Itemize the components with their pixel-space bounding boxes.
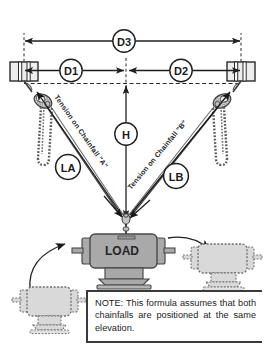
note-text: NOTE: This formula assumes that both cha… [95,297,256,334]
note-bottom-rule [86,341,262,343]
load-body: LOAD [72,227,175,289]
d1-label: D1 [64,65,78,77]
rigging-diagram-canvas: D3 D1 D2 [0,0,265,345]
la-callout: LA [56,155,81,180]
dimension-h: H [115,86,137,218]
load-label: LOAD [105,244,139,258]
d3-label: D3 [117,36,131,48]
dimension-d1: D1 [25,59,124,81]
h-label: H [122,129,130,141]
d2-label: D2 [174,65,188,77]
right-beam-anchor [227,62,255,81]
dimension-d2: D2 [129,59,240,81]
ghost-load-left [12,287,86,334]
lb-callout: LB [164,164,189,189]
shift-arrow-left [30,244,65,290]
lb-label: LB [169,171,184,183]
la-label: LA [61,162,76,174]
ghost-load-right [183,244,262,291]
left-beam-anchor [10,62,38,81]
note-callout-box: NOTE: This formula assumes that both cha… [86,290,262,343]
